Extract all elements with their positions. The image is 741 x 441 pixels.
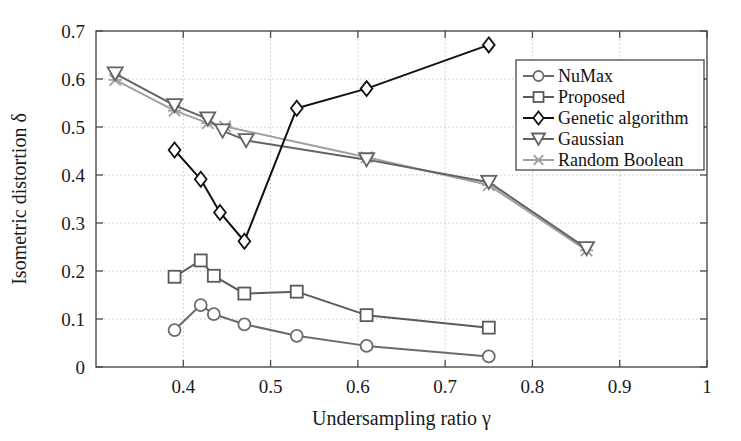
legend-item-label: Gaussian (558, 129, 624, 149)
x-tick-label: 0.6 (346, 376, 370, 397)
legend-item-label: Genetic algorithm (558, 108, 688, 128)
y-tick-label: 0.1 (61, 309, 85, 330)
marker-diamond (483, 37, 495, 52)
marker-square (483, 322, 495, 334)
legend-item-label: Proposed (558, 87, 625, 107)
y-tick-label: 0.5 (61, 117, 85, 138)
marker-diamond (361, 81, 373, 96)
x-tick-label: 0.5 (259, 376, 283, 397)
marker-square (361, 309, 373, 321)
marker-circle (483, 350, 495, 362)
y-tick-label: 0.2 (61, 261, 85, 282)
marker-triangle-down (215, 124, 230, 137)
marker-circle (534, 71, 544, 81)
marker-square (208, 270, 220, 282)
marker-triangle-down (579, 242, 594, 255)
marker-square (169, 271, 181, 283)
x-axis-title: Undersampling ratio γ (312, 407, 491, 430)
marker-triangle-down (481, 176, 496, 189)
series-numax (169, 299, 495, 362)
y-axis-title: Isometric distortion δ (8, 113, 30, 285)
x-tick-label: 0.7 (433, 376, 457, 397)
marker-circle (208, 308, 220, 320)
marker-square (238, 288, 250, 300)
y-tick-label: 0 (76, 357, 86, 378)
chart-figure: 00.10.20.30.40.50.60.70.40.50.60.70.80.9… (0, 0, 741, 441)
y-tick-label: 0.3 (61, 213, 85, 234)
series-proposed (169, 254, 495, 333)
x-tick-label: 0.9 (608, 376, 632, 397)
x-tick-label: 0.8 (521, 376, 545, 397)
series-polyline (175, 305, 489, 356)
marker-circle (291, 330, 303, 342)
chart-legend: NuMaxProposedGenetic algorithmGaussianRa… (516, 60, 704, 170)
series-genetic-algorithm (169, 37, 495, 248)
legend-item-label: NuMax (558, 66, 613, 86)
chart-canvas: 00.10.20.30.40.50.60.70.40.50.60.70.80.9… (0, 0, 741, 441)
marker-square (534, 92, 544, 102)
x-tick-label: 1 (702, 376, 712, 397)
marker-diamond (291, 101, 303, 116)
marker-circle (238, 318, 250, 330)
marker-square (195, 254, 207, 266)
x-tick-label: 0.4 (171, 376, 195, 397)
y-tick-label: 0.7 (61, 21, 85, 42)
y-tick-label: 0.4 (61, 165, 85, 186)
legend-item-label: Random Boolean (558, 150, 683, 170)
marker-circle (361, 340, 373, 352)
marker-circle (169, 324, 181, 336)
marker-circle (195, 299, 207, 311)
marker-square (291, 286, 303, 298)
y-tick-label: 0.6 (61, 69, 85, 90)
